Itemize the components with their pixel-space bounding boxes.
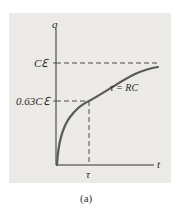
tau-tick-label: τ xyxy=(86,169,90,180)
x-axis-label: t xyxy=(157,159,160,170)
tau-equation-annotation: τ = RC xyxy=(110,83,138,93)
figure-caption: (a) xyxy=(80,192,92,204)
ce-label: Cℇ xyxy=(34,58,48,69)
ce063-label: 0.63Cℇ xyxy=(16,96,50,107)
y-axis-label: q xyxy=(52,19,58,30)
charge-curve xyxy=(57,67,158,165)
